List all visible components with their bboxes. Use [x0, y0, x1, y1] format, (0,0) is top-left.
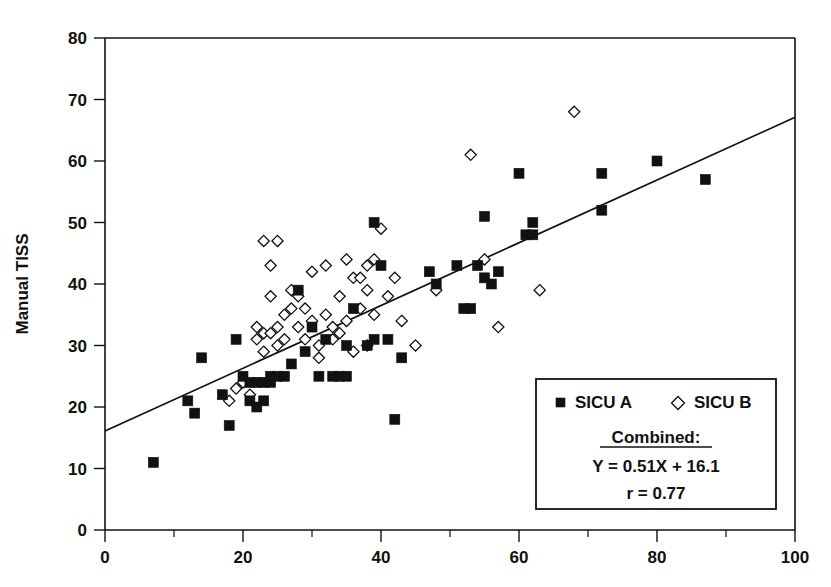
data-point-sicu-a [652, 156, 662, 166]
data-point-sicu-a [597, 205, 607, 215]
legend: SICU A SICU B Combined: Y = 0.51X + 16.1… [536, 379, 776, 509]
data-point-sicu-a [342, 371, 352, 381]
data-point-sicu-b [313, 352, 324, 363]
legend-label-sicu-b: SICU B [694, 393, 752, 412]
data-point-sicu-a [452, 261, 462, 271]
y-tick-label: 80 [68, 29, 87, 48]
data-point-sicu-b [410, 340, 421, 351]
data-point-sicu-a [424, 267, 434, 277]
data-point-sicu-b [258, 235, 269, 246]
data-point-sicu-a [493, 267, 503, 277]
x-tick-label: 80 [648, 548, 667, 567]
y-tick-label: 40 [68, 275, 87, 294]
data-point-sicu-a [342, 341, 352, 351]
data-point-sicu-a [348, 304, 358, 314]
data-point-sicu-a [148, 457, 158, 467]
data-point-sicu-a [376, 261, 386, 271]
y-tick-label: 30 [68, 337, 87, 356]
data-point-sicu-b [265, 291, 276, 302]
data-point-sicu-a [293, 285, 303, 295]
data-point-sicu-a [397, 353, 407, 363]
data-point-sicu-a [314, 371, 324, 381]
x-tick-label: 40 [372, 548, 391, 567]
data-point-sicu-a [217, 390, 227, 400]
data-point-sicu-a [321, 334, 331, 344]
y-tick-label: 0 [78, 521, 87, 540]
y-axis-ticks: 01020304050607080 [68, 29, 105, 540]
data-point-sicu-a [597, 168, 607, 178]
x-axis-ticks: 020406080100 [100, 530, 809, 567]
x-tick-label: 20 [234, 548, 253, 567]
y-tick-label: 20 [68, 398, 87, 417]
data-point-sicu-a [466, 304, 476, 314]
data-point-sicu-b [265, 260, 276, 271]
data-point-sicu-a [300, 347, 310, 357]
data-point-sicu-a [224, 420, 234, 430]
data-point-sicu-a [369, 218, 379, 228]
data-point-sicu-a [259, 396, 269, 406]
data-point-sicu-b [300, 303, 311, 314]
x-tick-label: 60 [510, 548, 529, 567]
data-point-sicu-b [293, 321, 304, 332]
data-point-sicu-a [700, 174, 710, 184]
data-point-sicu-a [431, 279, 441, 289]
y-tick-label: 70 [68, 91, 87, 110]
data-point-sicu-a [514, 168, 524, 178]
data-point-sicu-a [190, 408, 200, 418]
legend-marker-sicu-a-icon [556, 398, 565, 407]
data-point-sicu-a [369, 334, 379, 344]
data-point-sicu-a [473, 261, 483, 271]
data-point-sicu-b [534, 285, 545, 296]
legend-equation: Y = 0.51X + 16.1 [592, 457, 719, 476]
y-tick-label: 60 [68, 152, 87, 171]
data-point-sicu-a [480, 211, 490, 221]
x-tick-label: 0 [100, 548, 109, 567]
legend-label-sicu-a: SICU A [575, 393, 632, 412]
data-point-sicu-b [465, 149, 476, 160]
data-point-sicu-b [341, 254, 352, 265]
data-point-sicu-a [307, 322, 317, 332]
data-point-sicu-b [334, 291, 345, 302]
data-point-sicu-b [341, 315, 352, 326]
data-point-sicu-a [279, 371, 289, 381]
data-point-sicu-b [272, 235, 283, 246]
data-point-sicu-a [528, 230, 538, 240]
data-point-sicu-b [389, 272, 400, 283]
data-point-sicu-a [390, 414, 400, 424]
data-point-sicu-b [569, 106, 580, 117]
x-tick-label: 100 [781, 548, 809, 567]
data-point-sicu-b [355, 272, 366, 283]
data-point-sicu-a [197, 353, 207, 363]
y-axis-title: Manual TISS [13, 233, 32, 334]
data-point-sicu-b [320, 309, 331, 320]
data-point-sicu-b [493, 321, 504, 332]
data-point-sicu-a [528, 218, 538, 228]
legend-correlation: r = 0.77 [626, 484, 685, 503]
data-point-sicu-b [396, 315, 407, 326]
scatter-plot-figure: 01020304050607080 020406080100 Manual TI… [0, 0, 831, 587]
chart-canvas: 01020304050607080 020406080100 Manual TI… [0, 0, 831, 587]
data-point-sicu-b [306, 266, 317, 277]
data-point-sicu-a [183, 396, 193, 406]
data-point-sicu-a [486, 279, 496, 289]
legend-combined-heading: Combined: [612, 428, 701, 447]
y-tick-label: 10 [68, 460, 87, 479]
data-point-sicu-a [383, 334, 393, 344]
data-point-sicu-b [320, 260, 331, 271]
data-point-sicu-b [362, 285, 373, 296]
data-point-sicu-b [258, 346, 269, 357]
data-point-sicu-b [300, 334, 311, 345]
y-tick-label: 50 [68, 214, 87, 233]
data-point-sicu-a [231, 334, 241, 344]
data-point-sicu-a [286, 359, 296, 369]
